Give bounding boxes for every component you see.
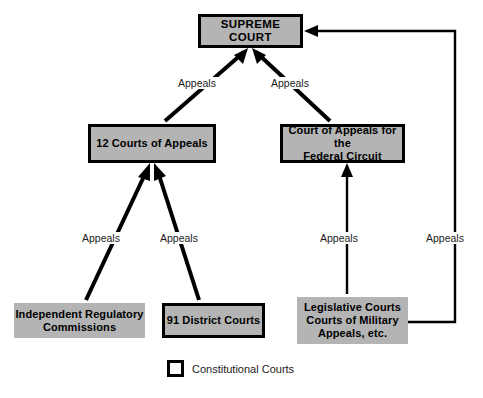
edge-label-fedcirc-to-supreme: Appeals: [269, 77, 311, 89]
node-legislative-courts[interactable]: Legislative Courts Courts of Military Ap…: [297, 297, 408, 344]
node-regulatory-commissions[interactable]: Independent Regulatory Commissions: [14, 303, 145, 338]
edge-label-coa-to-supreme: Appeals: [176, 77, 218, 89]
node-regulatory-commissions-line1: Independent Regulatory: [15, 308, 143, 320]
node-supreme-court-label: SUPREME COURT: [201, 18, 300, 44]
node-district-courts-label: 91 District Courts: [167, 314, 261, 327]
node-legislative-courts-line3: Appeals, etc.: [318, 327, 387, 339]
node-legislative-courts-line1: Legislative Courts: [304, 301, 401, 313]
node-regulatory-commissions-text: Independent Regulatory Commissions: [15, 308, 143, 334]
edge-label-legislative-to-supreme: Appeals: [424, 232, 466, 244]
node-federal-circuit-line1: Court of Appeals for the: [289, 124, 397, 149]
edge-label-district-to-coa: Appeals: [158, 232, 200, 244]
node-legislative-courts-text: Legislative Courts Courts of Military Ap…: [304, 301, 401, 340]
node-legislative-courts-line2: Courts of Military: [306, 314, 398, 326]
edge-legislative-to-fedcirc: [341, 163, 353, 294]
node-district-courts[interactable]: 91 District Courts: [162, 303, 265, 338]
legend-constitutional-label: Constitutional Courts: [192, 363, 294, 375]
node-federal-circuit-text: Court of Appeals for the Federal Circuit: [283, 124, 402, 163]
edge-label-commissions-to-coa: Appeals: [80, 232, 122, 244]
legend: Constitutional Courts: [167, 360, 294, 377]
node-federal-circuit-line2: Federal Circuit: [303, 150, 382, 162]
edge-label-legislative-to-fedcirc: Appeals: [318, 232, 360, 244]
node-courts-of-appeals[interactable]: 12 Courts of Appeals: [88, 124, 216, 163]
legend-constitutional-swatch: [167, 360, 184, 377]
node-regulatory-commissions-line2: Commissions: [43, 321, 116, 333]
connector-lines: [0, 0, 483, 398]
court-system-diagram: SUPREME COURT 12 Courts of Appeals Court…: [0, 0, 483, 398]
node-courts-of-appeals-label: 12 Courts of Appeals: [96, 137, 208, 150]
edge-legislative-to-supreme: [304, 25, 455, 322]
node-federal-circuit[interactable]: Court of Appeals for the Federal Circuit: [280, 124, 405, 163]
node-supreme-court[interactable]: SUPREME COURT: [198, 14, 303, 48]
